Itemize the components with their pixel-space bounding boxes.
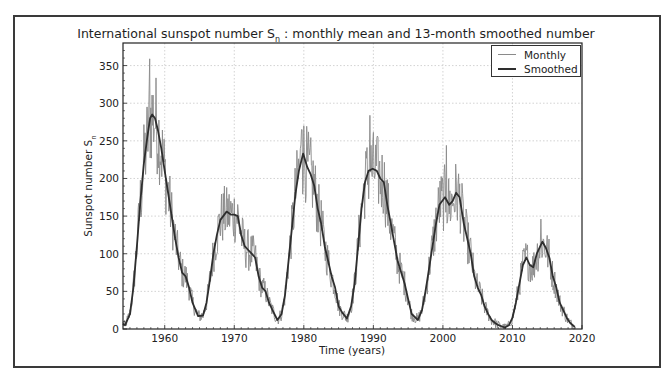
- legend-item-monthly: Monthly: [498, 48, 566, 61]
- y-axis-label: Sunspot number Sn: [82, 135, 97, 236]
- y-tick-label: 100: [99, 248, 119, 260]
- y-axis-label-main: Sunspot number S: [82, 140, 94, 237]
- monthly-line: [123, 59, 575, 329]
- x-tick-label: 2020: [569, 332, 596, 344]
- y-tick-label: 0: [112, 323, 119, 335]
- y-tick-label: 250: [99, 135, 119, 147]
- smoothed-series: [123, 115, 575, 328]
- y-tick-label: 200: [99, 172, 119, 184]
- legend-item-smoothed: Smoothed: [498, 62, 578, 75]
- legend-swatch-smoothed: [498, 68, 516, 70]
- x-tick-label: 2010: [499, 332, 526, 344]
- y-tick-label: 150: [99, 210, 119, 222]
- y-tick-label: 300: [99, 97, 119, 109]
- x-axis-label: Time (years): [319, 344, 385, 356]
- axis-ticks: 1960197019801990200020102020050100150200…: [99, 51, 595, 344]
- legend-swatch-monthly: [498, 54, 516, 55]
- x-tick-label: 1980: [290, 332, 317, 344]
- y-tick-label: 50: [106, 285, 119, 297]
- legend-label-monthly: Monthly: [524, 49, 566, 61]
- y-tick-label: 350: [99, 60, 119, 72]
- legend-label-smoothed: Smoothed: [524, 63, 578, 75]
- monthly-series: [123, 59, 575, 329]
- x-tick-label: 1970: [221, 332, 248, 344]
- axes-box: [123, 43, 582, 329]
- x-tick-label: 1990: [360, 332, 387, 344]
- x-tick-label: 1960: [151, 332, 178, 344]
- grid-lines: [123, 43, 582, 329]
- x-tick-label: 2000: [430, 332, 457, 344]
- legend: Monthly Smoothed: [491, 45, 581, 77]
- y-axis-label-subscript: n: [90, 135, 98, 139]
- smoothed-line: [123, 115, 575, 328]
